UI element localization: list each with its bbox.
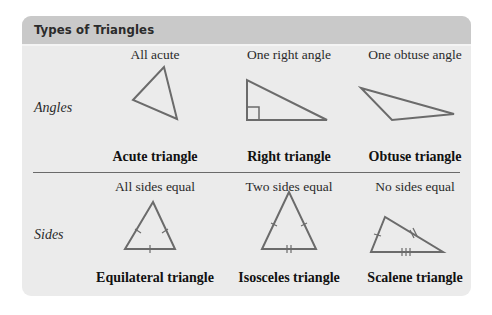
scalene-triangle-icon [22, 16, 471, 296]
name-scalene: Scalene triangle [367, 270, 462, 286]
triangle-types-card: Types of Triangles Angles All acute Acut… [22, 16, 471, 296]
